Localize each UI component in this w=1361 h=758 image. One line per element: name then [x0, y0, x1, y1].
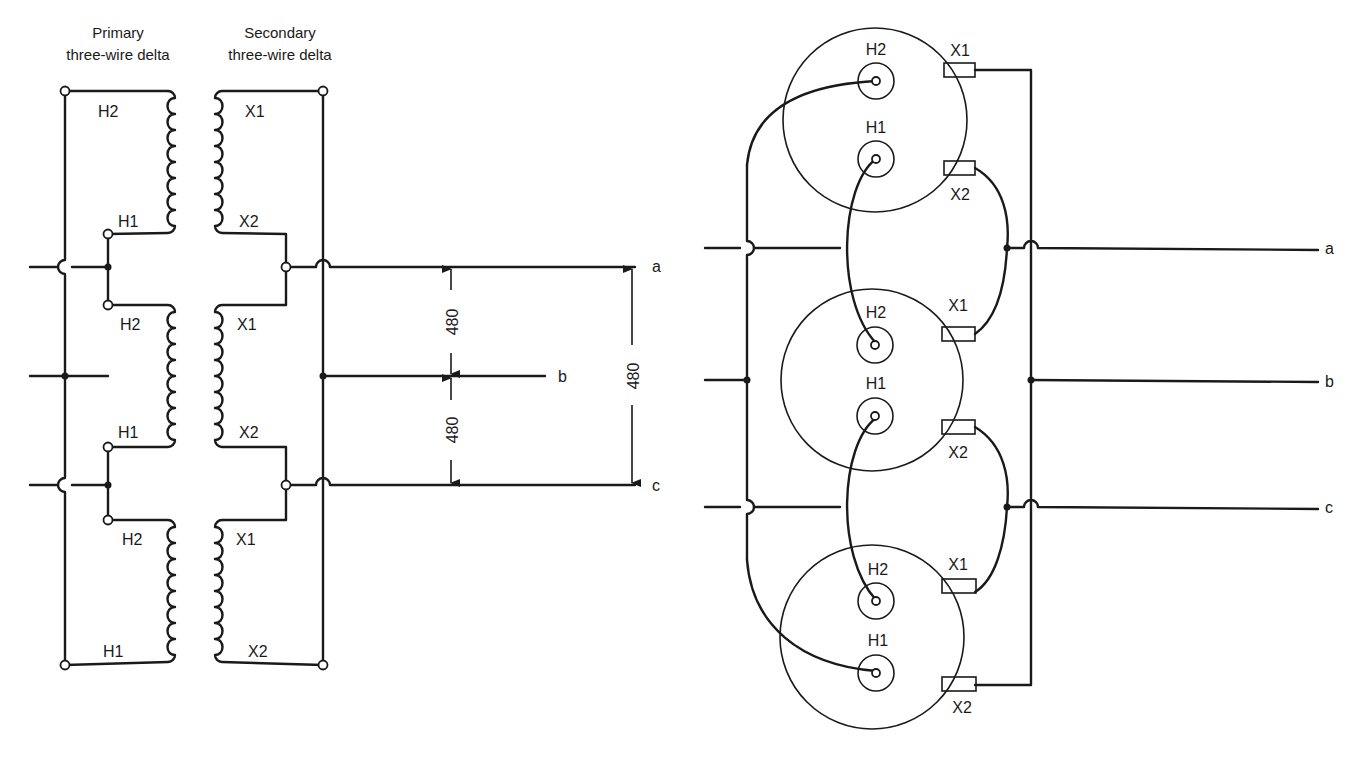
primary-terminal	[61, 87, 70, 96]
secondary-title-line2: three-wire delta	[228, 46, 332, 63]
line-label-c: c	[652, 477, 660, 494]
lead-x2-x1	[975, 168, 1008, 334]
label-x1: X1	[237, 316, 257, 333]
secondary-winding-2	[215, 267, 286, 485]
line-label-b: b	[1325, 373, 1334, 390]
transformer-can-2: H2 H1 X1 X2	[781, 289, 975, 471]
label-h2: H2	[98, 103, 119, 120]
secondary-title-line1: Secondary	[244, 24, 316, 41]
secondary-bus-right	[975, 70, 1031, 685]
line-label-b: b	[558, 368, 567, 385]
voltage-ab: 480	[444, 309, 461, 336]
primary-bus	[30, 91, 112, 665]
transformer-can-1: H2 H1 X1 X2	[783, 28, 975, 212]
lead-h1-bottom	[747, 560, 876, 671]
secondary-winding-1	[215, 91, 323, 267]
output-line-a	[286, 260, 635, 267]
output-line-c	[286, 478, 635, 485]
lead-x2-x1	[975, 427, 1008, 592]
label-h2: H2	[122, 531, 143, 548]
secondary-winding-3	[215, 485, 323, 665]
line-label-a: a	[652, 258, 661, 275]
label-h1: H1	[103, 643, 124, 660]
schematic-diagram: Primary three-wire delta Secondary three…	[30, 24, 661, 670]
voltage-bc: 480	[444, 417, 461, 444]
label-h1: H1	[866, 375, 887, 392]
label-h2: H2	[868, 561, 889, 578]
lead-h2-top	[747, 81, 876, 165]
output-line-b	[1031, 380, 1318, 382]
label-x2: X2	[248, 643, 268, 660]
voltage-ac: 480	[625, 363, 642, 390]
output-line-c	[1007, 500, 1318, 509]
label-x2: X2	[952, 699, 972, 716]
label-h1: H1	[118, 213, 139, 230]
primary-terminal	[61, 661, 70, 670]
pictorial-diagram: a b c H2 H1 X1 X2 H2 H1 X	[705, 28, 1334, 729]
label-x2: X2	[950, 186, 970, 203]
label-x1: X1	[236, 531, 256, 548]
label-h2: H2	[866, 41, 887, 58]
primary-title-line1: Primary	[92, 24, 144, 41]
label-x1: X1	[948, 297, 968, 314]
label-h2: H2	[866, 304, 887, 321]
label-x2: X2	[239, 213, 259, 230]
label-h1: H1	[868, 632, 889, 649]
label-x2: X2	[239, 424, 259, 441]
primary-terminal	[104, 301, 113, 310]
delta-delta-wiring-diagram: Primary three-wire delta Secondary three…	[0, 0, 1361, 758]
transformer-can-3: H2 H1 X1 X2	[780, 545, 976, 729]
label-h1: H1	[866, 119, 887, 136]
line-label-a: a	[1325, 240, 1334, 257]
primary-terminal	[104, 516, 113, 525]
primary-terminal	[104, 443, 113, 452]
label-h2: H2	[120, 316, 141, 333]
output-line-a	[1007, 241, 1318, 250]
voltage-dimension-ac: 480	[625, 269, 642, 483]
label-x1: X1	[245, 103, 265, 120]
primary-bus-right	[747, 165, 754, 560]
voltage-dimension-bc: 480	[444, 378, 461, 483]
label-h1: H1	[118, 424, 139, 441]
primary-terminal	[104, 230, 113, 239]
primary-title-line2: three-wire delta	[66, 46, 170, 63]
label-x1: X1	[948, 556, 968, 573]
label-x1: X1	[950, 42, 970, 59]
line-label-c: c	[1325, 499, 1333, 516]
voltage-dimension-ab: 480	[444, 269, 461, 374]
label-x2: X2	[948, 444, 968, 461]
